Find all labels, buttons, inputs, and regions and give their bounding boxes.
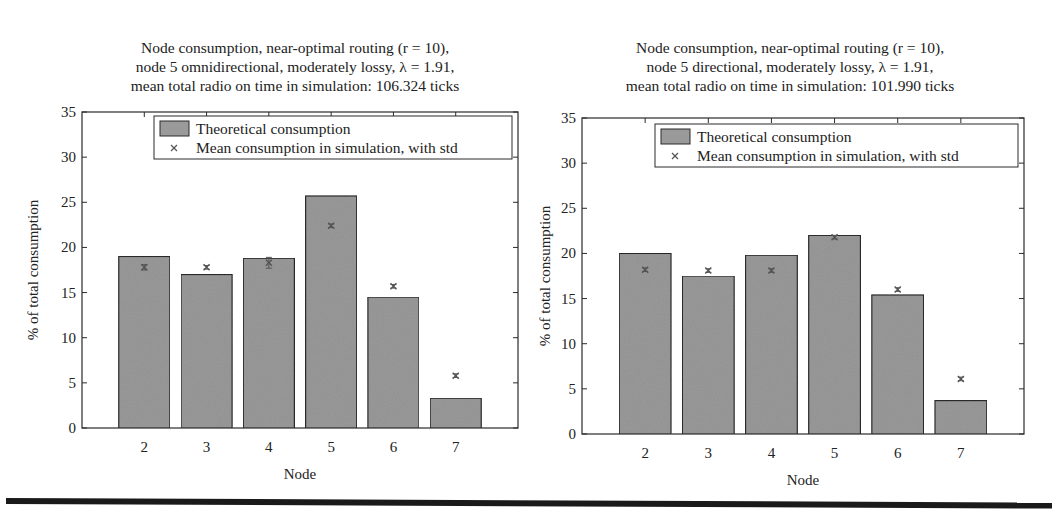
x-axis-label: Node xyxy=(284,466,317,482)
chart-right: Node consumption, near-optimal routing (… xyxy=(530,0,1054,500)
x-tick-label: 4 xyxy=(768,445,776,461)
x-tick-label: 5 xyxy=(327,439,335,455)
bar xyxy=(809,235,861,434)
x-tick-label: 7 xyxy=(957,445,965,461)
bar xyxy=(119,256,170,428)
x-tick-label: 3 xyxy=(705,445,713,461)
legend-swatch-bar xyxy=(661,129,690,144)
y-tick-label: 0 xyxy=(569,426,577,442)
x-tick-label: 5 xyxy=(831,445,839,461)
x-axis-label: Node xyxy=(787,472,820,488)
y-tick-label: 35 xyxy=(61,104,76,120)
chart-left: Node consumption, near-optimal routing (… xyxy=(0,0,530,500)
bar xyxy=(872,295,924,434)
y-tick-label: 25 xyxy=(561,200,576,216)
bar xyxy=(181,275,232,428)
y-tick-label: 25 xyxy=(61,194,76,210)
bar xyxy=(430,398,481,428)
bar xyxy=(619,253,671,434)
bar xyxy=(682,276,734,434)
legend-label-theoretical: Theoretical consumption xyxy=(196,120,351,137)
bar xyxy=(368,297,419,428)
legend-label-theoretical: Theoretical consumption xyxy=(697,128,852,145)
y-tick-label: 0 xyxy=(69,420,77,436)
title-line-1: Node consumption, near-optimal routing (… xyxy=(105,38,485,57)
x-tick-label: 6 xyxy=(894,445,902,461)
title-line-1: Node consumption, near-optimal routing (… xyxy=(590,38,990,57)
title-line-2: node 5 directional, moderately lossy, λ … xyxy=(590,57,990,76)
x-tick-label: 4 xyxy=(265,439,273,455)
legend-label-mean: Mean consumption in simulation, with std xyxy=(697,147,959,164)
y-tick-label: 30 xyxy=(61,149,76,165)
title-line-2: node 5 omnidirectional, moderately lossy… xyxy=(105,57,485,76)
legend-swatch-bar xyxy=(160,121,189,136)
x-tick-label: 3 xyxy=(203,439,211,455)
y-tick-label: 35 xyxy=(561,110,576,126)
y-tick-label: 5 xyxy=(569,381,577,397)
y-tick-label: 10 xyxy=(61,330,76,346)
bar xyxy=(746,255,798,434)
y-tick-label: 20 xyxy=(61,239,76,255)
chart-title: Node consumption, near-optimal routing (… xyxy=(590,38,990,95)
x-tick-label: 6 xyxy=(390,439,398,455)
y-tick-label: 30 xyxy=(561,155,576,171)
chart-title: Node consumption, near-optimal routing (… xyxy=(105,38,485,95)
title-line-3: mean total radio on time in simulation: … xyxy=(590,76,990,95)
y-tick-label: 20 xyxy=(561,245,576,261)
y-tick-label: 15 xyxy=(561,291,576,307)
legend: Theoretical consumptionMean consumption … xyxy=(655,124,1018,167)
legend: Theoretical consumptionMean consumption … xyxy=(154,116,512,159)
y-axis-label: % of total consumption xyxy=(537,205,553,346)
legend-label-mean: Mean consumption in simulation, with std xyxy=(196,139,458,156)
y-tick-label: 10 xyxy=(561,336,576,352)
bar xyxy=(243,258,294,428)
bar xyxy=(935,401,987,434)
x-tick-label: 2 xyxy=(641,445,649,461)
y-tick-label: 15 xyxy=(61,285,76,301)
x-tick-label: 2 xyxy=(141,439,149,455)
title-line-3: mean total radio on time in simulation: … xyxy=(105,76,485,95)
bar xyxy=(306,196,357,428)
y-tick-label: 5 xyxy=(69,375,77,391)
x-tick-label: 7 xyxy=(452,439,460,455)
y-axis-label: % of total consumption xyxy=(25,199,41,340)
